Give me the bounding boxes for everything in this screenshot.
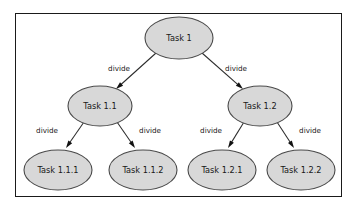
- edge-label: divide: [36, 126, 58, 135]
- diagram-canvas: dividedividedividedividedividedivide Tas…: [0, 0, 352, 211]
- arrowhead-icon: [228, 140, 234, 148]
- node-label: Task 1.2.2: [279, 165, 321, 175]
- node-task1_1_1[interactable]: Task 1.1.1: [24, 150, 92, 190]
- node-task1[interactable]: Task 1: [145, 17, 213, 59]
- node-task1_1_2[interactable]: Task 1.1.2: [109, 150, 177, 190]
- task-decomposition-diagram: dividedividedividedividedividedivide Tas…: [0, 0, 352, 211]
- node-label: Task 1.2: [242, 101, 276, 111]
- edge-line: [117, 122, 132, 143]
- edge-line: [231, 122, 244, 143]
- nodes-layer: Task 1Task 1.1Task 1.2Task 1.1.1Task 1.1…: [24, 17, 335, 190]
- node-label: Task 1.1.1: [36, 165, 78, 175]
- node-task1_2_1[interactable]: Task 1.2.1: [188, 150, 256, 190]
- edge-task1-to-task1_2: divide: [202, 53, 247, 89]
- node-task1_2_2[interactable]: Task 1.2.2: [267, 150, 335, 190]
- edge-task1-to-task1_1: divide: [108, 53, 156, 89]
- node-label: Task 1.1.2: [121, 165, 163, 175]
- edge-task1_1-to-task1_1_2: divide: [117, 122, 161, 148]
- node-label: Task 1: [165, 33, 191, 43]
- edge-label: divide: [200, 126, 222, 135]
- edge-task1_2-to-task1_2_2: divide: [277, 122, 321, 148]
- edge-line: [277, 122, 291, 143]
- edge-task1_2-to-task1_2_1: divide: [200, 122, 244, 148]
- node-task1_1[interactable]: Task 1.1: [68, 86, 132, 126]
- arrowhead-icon: [66, 141, 72, 148]
- edge-label: divide: [139, 126, 161, 135]
- node-label: Task 1.2.1: [200, 165, 242, 175]
- edge-label: divide: [225, 64, 247, 73]
- edge-label: divide: [299, 126, 321, 135]
- edge-line: [69, 122, 84, 143]
- edge-label: divide: [108, 64, 130, 73]
- edge-task1_1-to-task1_1_1: divide: [36, 122, 84, 148]
- arrowhead-icon: [288, 140, 294, 148]
- arrowhead-icon: [129, 141, 135, 148]
- node-task1_2[interactable]: Task 1.2: [228, 86, 292, 126]
- node-label: Task 1.1: [82, 101, 116, 111]
